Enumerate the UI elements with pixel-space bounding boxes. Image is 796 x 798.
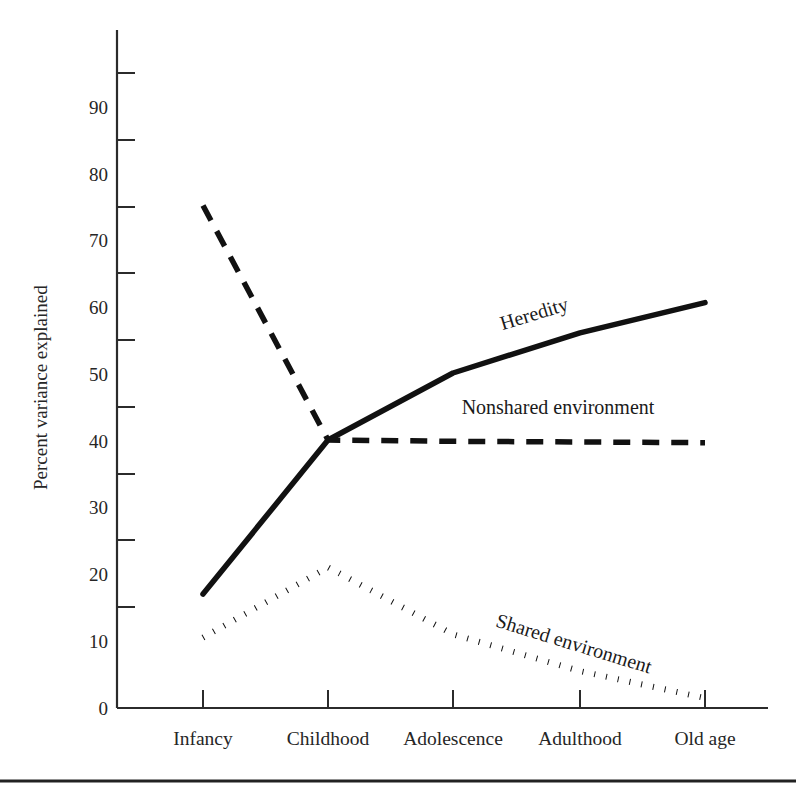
y-tick-label-60: 60 <box>89 297 108 318</box>
series-line-shared-environment <box>203 567 705 698</box>
x-label-childhood: Childhood <box>287 728 370 749</box>
line-chart-svg: 0 10 20 30 40 50 60 70 80 90 Percent var… <box>0 0 796 798</box>
series-label-heredity: Heredity <box>497 293 571 335</box>
x-label-old-age: Old age <box>674 728 735 749</box>
y-tick-label-30: 30 <box>89 497 108 518</box>
y-tick-label-80: 80 <box>89 164 108 185</box>
y-tick-label-90: 90 <box>89 97 108 118</box>
x-tick-marks <box>203 690 705 708</box>
y-tick-label-40: 40 <box>89 431 108 452</box>
x-label-infancy: Infancy <box>173 728 233 749</box>
x-label-adulthood: Adulthood <box>538 728 622 749</box>
y-tick-label-10: 10 <box>89 631 108 652</box>
y-tick-label-0: 0 <box>99 698 109 719</box>
x-label-adolescence: Adolescence <box>403 728 503 749</box>
series-label-shared-environment: Shared environment <box>494 609 655 677</box>
chart-figure: 0 10 20 30 40 50 60 70 80 90 Percent var… <box>0 0 796 798</box>
series-label-nonshared-environment: Nonshared environment <box>462 396 655 418</box>
y-tick-label-70: 70 <box>89 230 108 251</box>
y-tick-marks <box>117 73 135 607</box>
y-tick-label-20: 20 <box>89 564 108 585</box>
y-tick-label-50: 50 <box>89 364 108 385</box>
y-axis-title: Percent variance explained <box>30 285 51 490</box>
